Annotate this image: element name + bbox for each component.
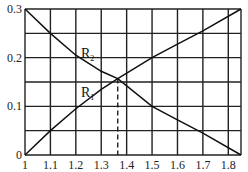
x-tick-label: 1.5 (145, 158, 160, 172)
y-tick-label: 0.3 (7, 2, 22, 16)
axis-ticks: 11.11.21.31.41.51.61.71.800.10.20.3 (7, 2, 236, 172)
y-tick-label: 0.1 (7, 99, 22, 113)
label-r2: R2 (81, 46, 94, 63)
x-tick-label: 1.3 (94, 158, 109, 172)
x-tick-label: 1.6 (170, 158, 185, 172)
x-tick-label: 1 (22, 158, 28, 172)
grid-lines (25, 9, 241, 155)
y-tick-label: 0 (16, 148, 22, 162)
x-tick-label: 1.2 (68, 158, 83, 172)
x-tick-label: 1.8 (221, 158, 236, 172)
x-tick-label: 1.7 (195, 158, 210, 172)
x-tick-label: 1.4 (119, 158, 134, 172)
chart: 11.11.21.31.41.51.61.71.800.10.20.3 R1R2 (0, 0, 248, 172)
y-tick-label: 0.2 (7, 51, 22, 65)
series-labels: R1R2 (81, 46, 94, 102)
label-r1: R1 (81, 85, 94, 102)
x-tick-label: 1.1 (43, 158, 58, 172)
